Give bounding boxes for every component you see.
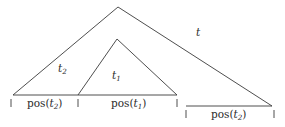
label-t2-inner-sub: 2: [62, 67, 67, 76]
label-pos-t2-left-prefix: pos(: [27, 97, 50, 109]
label-pos-t2-right-prefix: pos(: [211, 108, 234, 120]
label-t1-inner-sub: 1: [116, 74, 121, 83]
label-pos-t1: pos(t1): [111, 98, 146, 110]
label-pos-t1-suffix: ): [142, 97, 146, 109]
label-pos-t2-left-suffix: ): [58, 97, 62, 109]
label-pos-t2-right: pos(t2): [211, 109, 246, 121]
tree-position-diagram: t2 t1 t pos(t2) pos(t1) pos(t2): [0, 0, 285, 127]
label-pos-t1-prefix: pos(: [111, 97, 134, 109]
outer-triangle-t: [13, 7, 272, 106]
label-t-outer: t: [196, 27, 200, 38]
label-t2-inner: t2: [58, 63, 67, 75]
inner-triangle-t1: [78, 39, 177, 95]
label-pos-t2-left: pos(t2): [27, 98, 62, 110]
label-t1-inner: t1: [112, 70, 121, 82]
label-pos-t2-right-suffix: ): [242, 108, 246, 120]
